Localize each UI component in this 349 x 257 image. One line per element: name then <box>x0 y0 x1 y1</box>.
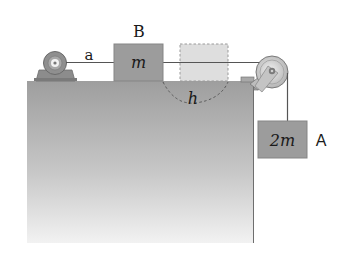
motor-icon <box>34 52 77 82</box>
displacement-label: h <box>188 89 198 108</box>
block-b-mass-label: m <box>131 53 146 72</box>
block-a-mass-label: 2m <box>269 131 295 150</box>
block-b: m <box>114 44 163 81</box>
block-a-label: A <box>316 132 327 149</box>
block-b-label: B <box>133 22 145 41</box>
rope-a-label: a <box>85 46 94 64</box>
block-a: 2m <box>258 121 307 158</box>
pulley-diagram: m B a h 2m A <box>0 0 349 257</box>
table <box>27 81 254 243</box>
pulley-icon <box>255 56 288 92</box>
